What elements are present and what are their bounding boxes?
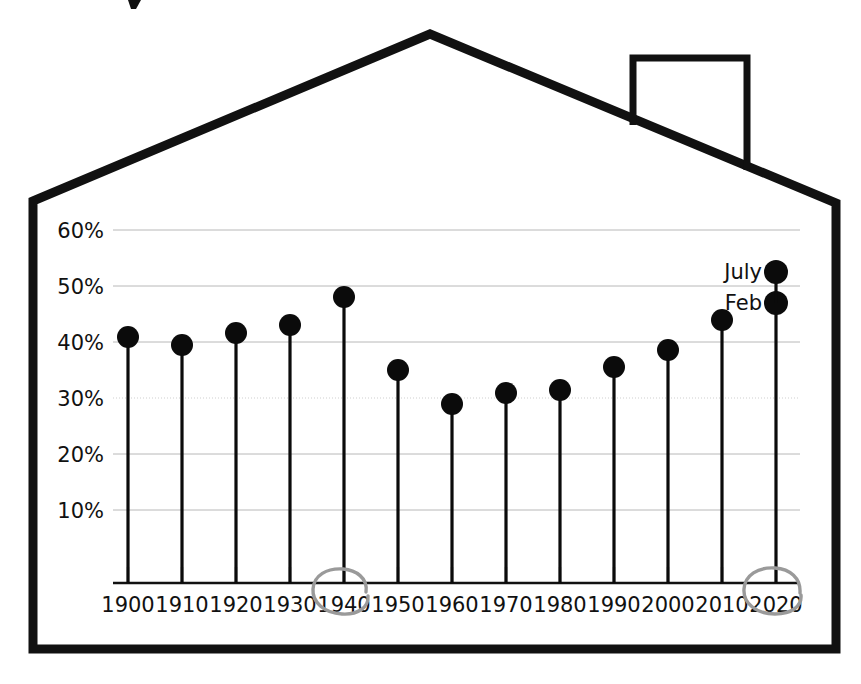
x-tick-label-1970: 1970 (479, 593, 532, 617)
lollipop-1910 (171, 334, 193, 583)
lollipop-1960 (441, 393, 463, 583)
x-tick-label-2000: 2000 (641, 593, 694, 617)
lollipop-1990 (603, 356, 625, 583)
x-tick-label-1960: 1960 (425, 593, 478, 617)
x-tick-label-1900: 1900 (101, 593, 154, 617)
lollipop-2010 (711, 309, 733, 583)
lollipop-1950 (387, 359, 409, 583)
x-axis-labels: 1900 1910 1920 1930 1940 1950 1960 1970 … (101, 593, 802, 617)
cropped-title-descender (128, 0, 141, 9)
x-tick-label-1930: 1930 (263, 593, 316, 617)
lollipop-1970 (495, 382, 517, 583)
lollipop-1930 (279, 314, 301, 583)
chimney-outline (633, 58, 747, 170)
x-tick-label-1990: 1990 (587, 593, 640, 617)
lollipop-2020-feb (764, 291, 788, 583)
lollipop-2000 (657, 339, 679, 583)
chart-canvas: 60% 50% 40% 30% 20% 10% (0, 0, 861, 684)
x-tick-label-1920: 1920 (209, 593, 262, 617)
y-tick-label-40: 40% (57, 331, 104, 355)
lollipop-series-feb (117, 286, 788, 583)
x-tick-label-1910: 1910 (155, 593, 208, 617)
x-tick-label-1950: 1950 (371, 593, 424, 617)
house-lollipop-chart: 60% 50% 40% 30% 20% 10% (0, 0, 861, 684)
x-tick-label-1980: 1980 (533, 593, 586, 617)
lollipop-1920 (225, 322, 247, 583)
y-tick-label-20: 20% (57, 443, 104, 467)
y-axis-labels: 60% 50% 40% 30% 20% 10% (57, 219, 104, 523)
y-tick-label-30: 30% (57, 387, 104, 411)
y-tick-label-10: 10% (57, 499, 104, 523)
point-label-july: July (722, 260, 762, 284)
lollipop-1940 (333, 286, 355, 583)
y-tick-label-60: 60% (57, 219, 104, 243)
point-label-feb: Feb (725, 291, 762, 315)
y-tick-label-50: 50% (57, 275, 104, 299)
x-tick-label-2010: 2010 (695, 593, 748, 617)
gridlines (113, 230, 800, 510)
lollipop-1980 (549, 379, 571, 583)
